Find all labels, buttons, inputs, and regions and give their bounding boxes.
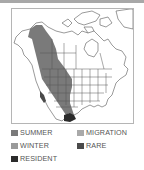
legend-label-resident: RESIDENT [20, 154, 57, 163]
rare-swatch [77, 143, 84, 149]
legend-label-rare: RARE [86, 141, 106, 150]
legend-item-resident: RESIDENT [11, 154, 57, 163]
migration-swatch [77, 130, 84, 136]
winter-swatch [11, 143, 18, 149]
resident-swatch [11, 156, 18, 162]
legend-label-winter: WINTER [20, 141, 49, 150]
legend-item-rare: RARE [77, 141, 106, 150]
range-map [11, 8, 134, 124]
top-strip [0, 0, 144, 3]
legend-label-migration: MIGRATION [86, 128, 127, 137]
legend-item-winter: WINTER [11, 141, 49, 150]
north-america-map [12, 9, 133, 123]
legend-label-summer: SUMMER [20, 128, 53, 137]
summer-swatch [11, 130, 18, 136]
arctic-islands [74, 11, 100, 25]
legend-item-migration: MIGRATION [77, 128, 127, 137]
legend-item-summer: SUMMER [11, 128, 53, 137]
